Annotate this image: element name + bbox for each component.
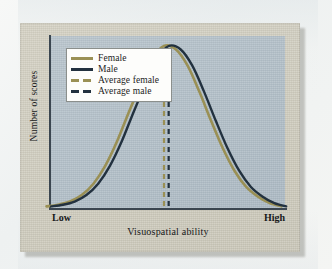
x-axis-tick-high: High xyxy=(264,212,285,223)
legend-label-average-male: Average male xyxy=(98,86,152,97)
dashed-line-swatch-icon xyxy=(71,75,93,86)
line-swatch-icon xyxy=(71,53,93,64)
legend-item-female: Female xyxy=(71,53,166,64)
legend-item-average-male: Average male xyxy=(71,86,166,97)
y-axis-title: Number of scores xyxy=(29,46,39,166)
x-axis-tick-low: Low xyxy=(52,212,71,223)
dashed-line-swatch-icon xyxy=(71,86,93,97)
legend-label-average-female: Average female xyxy=(98,75,159,86)
distribution-chart: Female Male Average female Average male xyxy=(20,23,300,252)
figure-card: Female Male Average female Average male xyxy=(20,23,300,252)
chart-legend: Female Male Average female Average male xyxy=(66,48,172,102)
line-swatch-icon xyxy=(71,64,93,75)
x-axis-title: Visuospatial ability xyxy=(50,226,286,237)
legend-item-male: Male xyxy=(71,64,166,75)
legend-label-female: Female xyxy=(98,53,127,64)
legend-item-average-female: Average female xyxy=(71,75,166,86)
legend-label-male: Male xyxy=(98,64,118,75)
